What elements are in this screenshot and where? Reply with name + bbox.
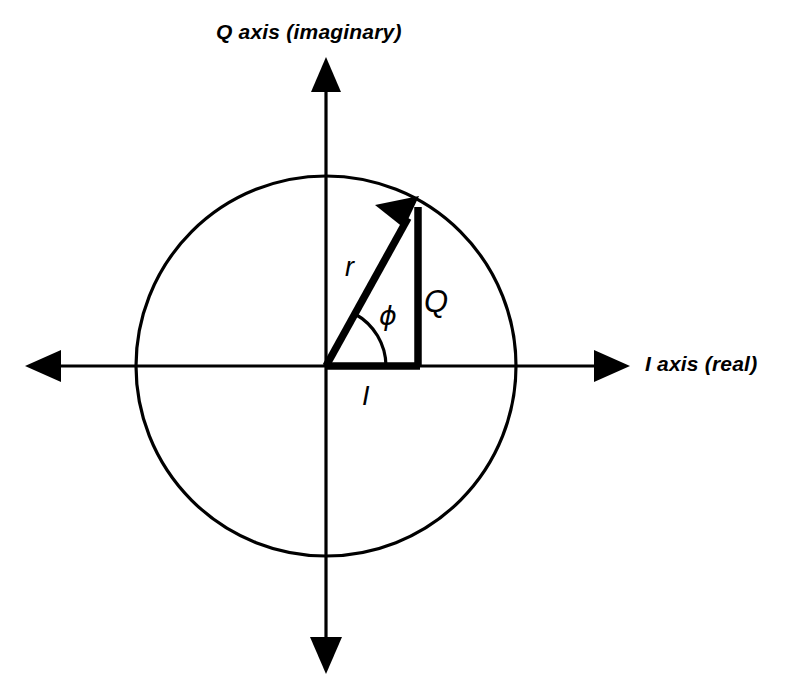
diagram-canvas <box>0 0 787 694</box>
i-axis-right-arrowhead-icon <box>594 350 630 382</box>
i-axis-label: I axis (real) <box>645 352 757 376</box>
q-axis-up-arrowhead-icon <box>311 57 341 92</box>
phasor-magnitude-label: r <box>345 254 354 281</box>
i-axis-left-arrowhead-icon <box>25 350 61 382</box>
phase-angle-label: ϕ <box>379 302 397 329</box>
q-axis-label: Q axis (imaginary) <box>216 20 402 44</box>
iq-phasor-diagram: Q axis (imaginary) I axis (real) r ϕ Q I <box>0 0 787 694</box>
phasor-vector-arrowhead-icon <box>375 196 419 228</box>
phasor-vector-shaft <box>326 218 408 366</box>
quadrature-component-label: Q <box>424 286 448 317</box>
q-axis-down-arrowhead-icon <box>310 637 342 674</box>
in-phase-component-label: I <box>362 383 370 410</box>
